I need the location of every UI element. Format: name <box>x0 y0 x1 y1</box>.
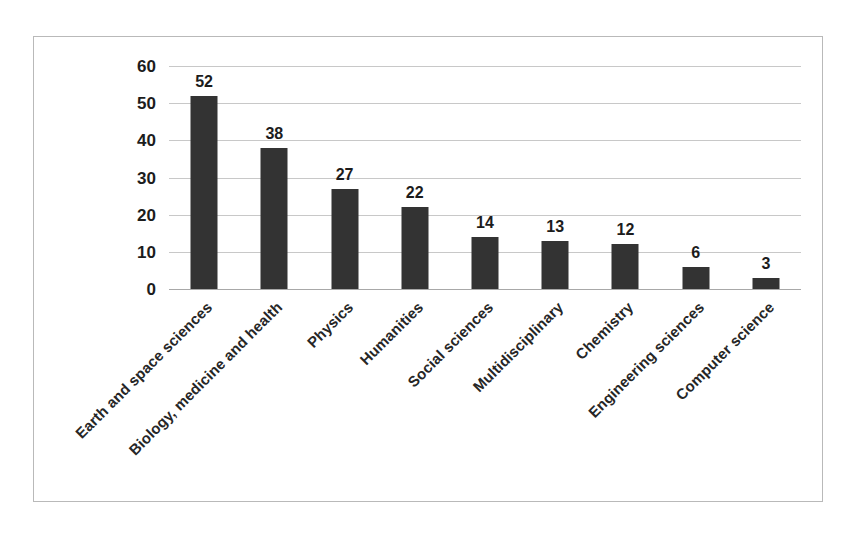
bar[interactable] <box>752 278 779 289</box>
bar[interactable] <box>401 207 428 289</box>
bar[interactable] <box>612 244 639 289</box>
bar-value-label: 27 <box>336 167 354 183</box>
y-axis-tick-label: 40 <box>137 132 156 149</box>
plot-area: 0102030405060 52Earth and space sciences… <box>169 66 801 289</box>
x-axis-category-label: Physics <box>304 299 355 350</box>
bar-group: 27Physics <box>309 66 379 289</box>
chart-frame: 0102030405060 52Earth and space sciences… <box>33 36 823 502</box>
bar-value-label: 52 <box>195 74 213 90</box>
bar[interactable] <box>331 189 358 289</box>
bar-group: 13Multidisciplinary <box>520 66 590 289</box>
bar-group: 3Computer science <box>731 66 801 289</box>
bar-group: 52Earth and space sciences <box>169 66 239 289</box>
bar-group: 12Chemistry <box>590 66 660 289</box>
bar-group: 38Biology, medicine and health <box>239 66 309 289</box>
y-axis-tick-label: 60 <box>137 58 156 75</box>
y-axis-tick-label: 30 <box>137 169 156 186</box>
y-axis-tick-label: 0 <box>147 281 156 298</box>
x-axis-category-label: Engineering sciences <box>585 299 706 420</box>
bar[interactable] <box>542 241 569 289</box>
y-axis-tick-label: 20 <box>137 206 156 223</box>
bar-group: 22Humanities <box>380 66 450 289</box>
x-axis-category-label: Biology, medicine and health <box>126 299 285 458</box>
bar-value-label: 38 <box>265 126 283 142</box>
bar-group: 6Engineering sciences <box>661 66 731 289</box>
bar[interactable] <box>261 148 288 289</box>
bar-group: 14Social sciences <box>450 66 520 289</box>
y-axis-tick-label: 10 <box>137 243 156 260</box>
x-axis-category-label: Chemistry <box>573 299 636 362</box>
bar-value-label: 22 <box>406 185 424 201</box>
x-axis-category-label: Humanities <box>357 299 425 367</box>
bar[interactable] <box>191 96 218 289</box>
bar[interactable] <box>682 267 709 289</box>
bar-value-label: 3 <box>761 256 770 272</box>
x-axis-category-label: Earth and space sciences <box>73 299 215 441</box>
bar-value-label: 6 <box>691 245 700 261</box>
bars-group: 52Earth and space sciences38Biology, med… <box>169 66 801 289</box>
bar-value-label: 14 <box>476 215 494 231</box>
bar[interactable] <box>471 237 498 289</box>
bar-value-label: 12 <box>617 222 635 238</box>
bar-value-label: 13 <box>546 219 564 235</box>
y-axis-tick-label: 50 <box>137 95 156 112</box>
gridline <box>169 289 801 290</box>
